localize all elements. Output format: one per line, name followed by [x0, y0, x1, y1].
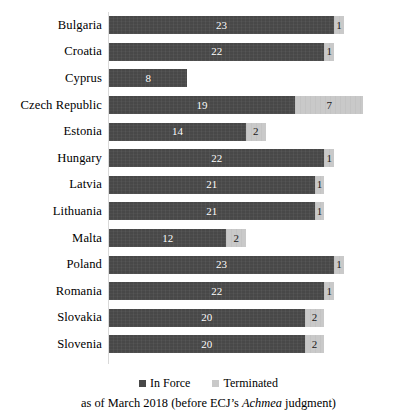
bar-value-label: 19	[196, 100, 207, 111]
stacked-bar[interactable]: 211	[109, 176, 324, 194]
category-label-latvia: Latvia	[69, 177, 102, 192]
bar-row: Poland231	[108, 251, 382, 278]
bar-segment-in-force[interactable]: 20	[109, 309, 305, 327]
bar-row: Lithuania211	[108, 198, 382, 225]
bar-segment-in-force[interactable]: 22	[109, 43, 324, 61]
stacked-bar[interactable]: 197	[109, 96, 363, 114]
bar-segment-in-force[interactable]: 8	[109, 69, 187, 87]
bar-value-label: 22	[211, 46, 222, 57]
category-label-slovenia: Slovenia	[57, 337, 102, 352]
bar-value-label: 12	[162, 233, 173, 244]
bar-segment-in-force[interactable]: 20	[109, 335, 305, 353]
bar-value-label: 7	[326, 100, 332, 111]
chart-legend: In ForceTerminated	[0, 376, 417, 391]
bar-segment-in-force[interactable]: 12	[109, 229, 226, 247]
bar-row: Malta122	[108, 225, 382, 252]
bar-segment-terminated[interactable]: 1	[324, 43, 334, 61]
bar-segment-terminated[interactable]: 1	[315, 202, 325, 220]
bar-segment-in-force[interactable]: 14	[109, 123, 246, 141]
bar-value-label: 2	[312, 312, 318, 323]
category-label-cyprus: Cyprus	[65, 71, 102, 86]
legend-item-in-force[interactable]: In Force	[139, 376, 190, 391]
legend-swatch-terminated-icon	[212, 380, 219, 387]
bar-segment-terminated[interactable]: 1	[334, 256, 344, 274]
legend-item-terminated[interactable]: Terminated	[212, 376, 277, 391]
bar-segment-in-force[interactable]: 21	[109, 176, 315, 194]
bar-segment-terminated[interactable]: 2	[226, 229, 246, 247]
bar-value-label: 2	[233, 233, 239, 244]
stacked-bar[interactable]: 221	[109, 43, 334, 61]
bar-value-label: 14	[172, 126, 183, 137]
plot-area: Bulgaria231Croatia221Cyprus8Czech Republ…	[108, 12, 382, 364]
category-label-lithuania: Lithuania	[53, 204, 102, 219]
category-label-poland: Poland	[66, 257, 102, 272]
bar-value-label: 20	[201, 339, 212, 350]
bar-value-label: 23	[216, 20, 227, 31]
bar-segment-terminated[interactable]: 2	[305, 309, 325, 327]
bar-row: Estonia142	[108, 118, 382, 145]
bar-segment-terminated[interactable]: 1	[315, 176, 325, 194]
legend-label: Terminated	[223, 376, 277, 391]
bar-segment-in-force[interactable]: 23	[109, 256, 334, 274]
bar-segment-terminated[interactable]: 7	[295, 96, 364, 114]
category-label-romania: Romania	[56, 284, 102, 299]
bar-segment-terminated[interactable]: 1	[334, 16, 344, 34]
bar-segment-terminated[interactable]: 2	[246, 123, 266, 141]
category-label-estonia: Estonia	[64, 124, 102, 139]
stacked-bar[interactable]: 202	[109, 335, 324, 353]
caption-prefix: as of March 2018 (before ECJ’s	[81, 396, 242, 410]
bar-row: Bulgaria231	[108, 12, 382, 39]
bar-value-label: 8	[145, 73, 151, 84]
bar-value-label: 1	[326, 153, 332, 164]
bar-value-label: 2	[312, 339, 318, 350]
stacked-bar[interactable]: 122	[109, 229, 246, 247]
bar-value-label: 1	[336, 259, 342, 270]
stacked-bar[interactable]: 8	[109, 69, 187, 87]
bar-value-label: 22	[211, 286, 222, 297]
bar-value-label: 20	[201, 312, 212, 323]
legend-label: In Force	[150, 376, 190, 391]
bar-row: Hungary221	[108, 145, 382, 172]
caption-suffix: judgment)	[282, 396, 336, 410]
bar-value-label: 21	[206, 179, 217, 190]
bar-segment-terminated[interactable]: 1	[324, 149, 334, 167]
bar-row: Slovenia202	[108, 331, 382, 358]
category-label-hungary: Hungary	[57, 151, 102, 166]
bar-value-label: 22	[211, 153, 222, 164]
bar-value-label: 21	[206, 206, 217, 217]
bar-segment-in-force[interactable]: 19	[109, 96, 295, 114]
bar-segment-terminated[interactable]: 2	[305, 335, 325, 353]
bar-value-label: 1	[317, 206, 323, 217]
bar-value-label: 1	[326, 286, 332, 297]
bar-value-label: 1	[336, 20, 342, 31]
stacked-bar[interactable]: 202	[109, 309, 324, 327]
bar-row: Romania221	[108, 278, 382, 305]
bar-segment-in-force[interactable]: 22	[109, 149, 324, 167]
category-label-bulgaria: Bulgaria	[58, 18, 102, 33]
stacked-bar[interactable]: 231	[109, 16, 344, 34]
bar-segment-terminated[interactable]: 1	[324, 282, 334, 300]
category-label-malta: Malta	[72, 231, 102, 246]
bar-value-label: 2	[253, 126, 259, 137]
bar-segment-in-force[interactable]: 23	[109, 16, 334, 34]
bar-row: Croatia221	[108, 39, 382, 66]
bar-segment-in-force[interactable]: 21	[109, 202, 315, 220]
bar-row: Latvia211	[108, 172, 382, 199]
category-label-croatia: Croatia	[64, 44, 102, 59]
bar-value-label: 1	[326, 46, 332, 57]
chart-caption: as of March 2018 (before ECJ’s Achmea ju…	[0, 396, 417, 411]
category-label-slovakia: Slovakia	[57, 310, 102, 325]
bar-value-label: 23	[216, 259, 227, 270]
bar-segment-in-force[interactable]: 22	[109, 282, 324, 300]
bar-value-label: 1	[317, 179, 323, 190]
stacked-bar[interactable]: 231	[109, 256, 344, 274]
stacked-bar[interactable]: 142	[109, 123, 266, 141]
caption-italic-term: Achmea	[242, 396, 282, 410]
stacked-bar-chart: Bulgaria231Croatia221Cyprus8Czech Republ…	[0, 0, 417, 417]
bar-row: Slovakia202	[108, 305, 382, 332]
stacked-bar[interactable]: 211	[109, 202, 324, 220]
legend-swatch-inforce-icon	[139, 380, 146, 387]
stacked-bar[interactable]: 221	[109, 282, 334, 300]
stacked-bar[interactable]: 221	[109, 149, 334, 167]
bar-row: Czech Republic197	[108, 92, 382, 119]
